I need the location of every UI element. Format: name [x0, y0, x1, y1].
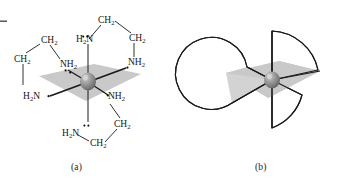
- figure-root: H2N CH2 CH2 NH2 CH2 CH2 NH2 H2N NH2 CH2 …: [0, 0, 342, 186]
- caption-panel-a: (a): [71, 162, 82, 172]
- caption-panel-b: (b): [255, 162, 267, 172]
- metal-center-sphere-b: [264, 72, 280, 89]
- panel-b-propeller-schematic: [0, 0, 342, 186]
- metal-sphere-highlight-b: [267, 74, 272, 80]
